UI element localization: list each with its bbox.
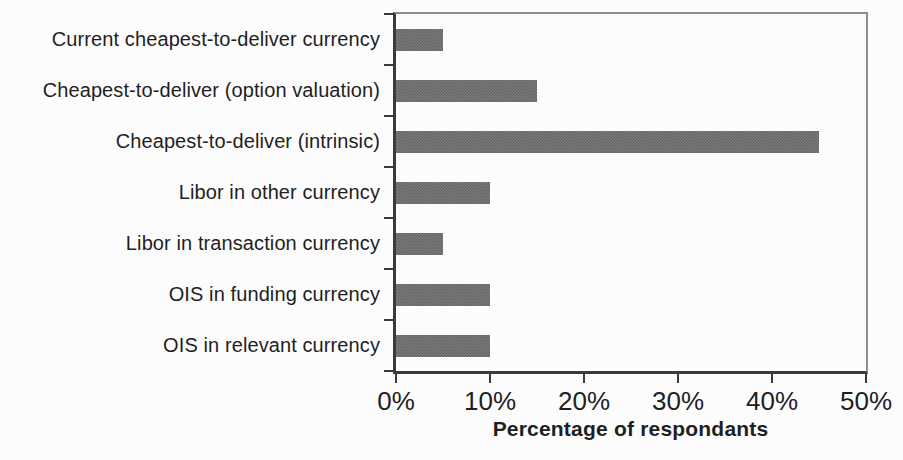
bar bbox=[396, 335, 490, 357]
bar-row bbox=[396, 167, 866, 218]
x-tick-label: 50% bbox=[840, 386, 892, 417]
x-tick-label: 30% bbox=[652, 386, 704, 417]
x-axis-tick bbox=[395, 374, 397, 383]
y-axis-tick bbox=[384, 115, 393, 117]
y-axis-tick bbox=[384, 217, 393, 219]
bar-row bbox=[396, 320, 866, 371]
bar-row bbox=[396, 116, 866, 167]
bar bbox=[396, 182, 490, 204]
y-axis-tick bbox=[384, 370, 393, 372]
category-label: Cheapest-to-deliver (option valuation) bbox=[0, 65, 380, 116]
category-label: OIS in funding currency bbox=[0, 269, 380, 320]
bar bbox=[396, 80, 537, 102]
y-axis-tick bbox=[384, 166, 393, 168]
category-label: Cheapest-to-deliver (intrinsic) bbox=[0, 116, 380, 167]
bar bbox=[396, 233, 443, 255]
x-tick-label: 40% bbox=[746, 386, 798, 417]
y-axis-tick bbox=[384, 13, 393, 15]
category-label: OIS in relevant currency bbox=[0, 320, 380, 371]
x-tick-label: 0% bbox=[377, 386, 415, 417]
bar bbox=[396, 131, 819, 153]
x-axis-tick bbox=[489, 374, 491, 383]
bar-row bbox=[396, 65, 866, 116]
x-tick-labels: 0%10%20%30%40%50% bbox=[396, 386, 866, 414]
category-label: Libor in transaction currency bbox=[0, 218, 380, 269]
x-axis-tick bbox=[865, 374, 867, 383]
category-label: Libor in other currency bbox=[0, 167, 380, 218]
bar-row bbox=[396, 14, 866, 65]
category-label: Current cheapest-to-deliver currency bbox=[0, 14, 380, 65]
bar-row bbox=[396, 269, 866, 320]
x-axis-title: Percentage of respondants bbox=[393, 417, 868, 441]
bar bbox=[396, 29, 443, 51]
x-axis-tick bbox=[771, 374, 773, 383]
y-axis-tick bbox=[384, 319, 393, 321]
x-tick-label: 10% bbox=[464, 386, 516, 417]
bar-row bbox=[396, 218, 866, 269]
x-axis-tick bbox=[677, 374, 679, 383]
bar bbox=[396, 284, 490, 306]
category-labels: Current cheapest-to-deliver currencyChea… bbox=[0, 14, 380, 371]
y-axis-tick bbox=[384, 268, 393, 270]
y-axis-tick bbox=[384, 64, 393, 66]
bars bbox=[396, 14, 866, 371]
x-tick-label: 20% bbox=[558, 386, 610, 417]
plot-area bbox=[393, 12, 868, 374]
x-axis-tick bbox=[583, 374, 585, 383]
bar-chart-figure: Current cheapest-to-deliver currencyChea… bbox=[0, 0, 903, 460]
